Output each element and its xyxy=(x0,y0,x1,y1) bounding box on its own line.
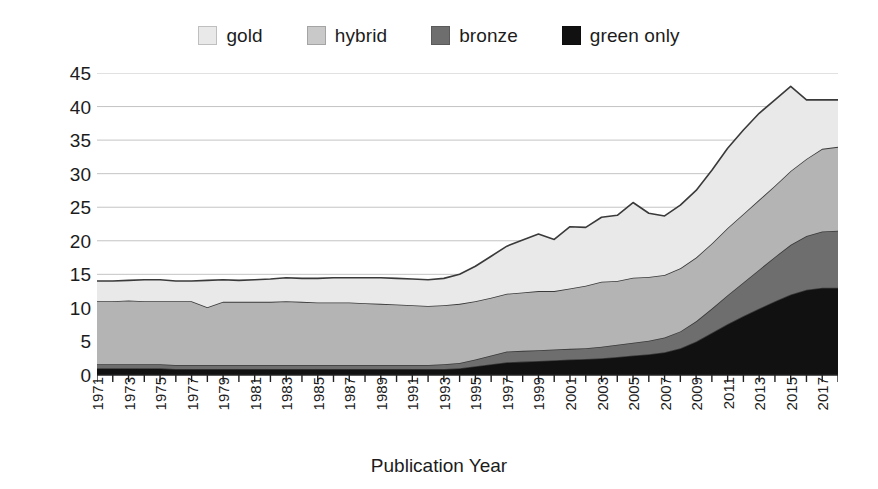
x-tick-label: 2007 xyxy=(658,377,673,410)
x-tick-label: 2011 xyxy=(721,377,736,409)
legend-label-hybrid: hybrid xyxy=(335,26,387,45)
y-tick-label: 10 xyxy=(70,298,91,317)
legend-swatch-bronze xyxy=(431,26,450,45)
y-tick-label: 25 xyxy=(70,198,91,217)
x-tick-label: 1975 xyxy=(153,377,168,410)
x-tick-label: 1993 xyxy=(437,377,452,410)
y-axis-ticks: 051015202530354045 xyxy=(55,73,91,375)
legend-item-green-only: green only xyxy=(562,26,680,45)
x-tick-label: 1973 xyxy=(122,377,137,410)
plot-area xyxy=(97,73,838,375)
chart-legend: gold hybrid bronze green only xyxy=(0,20,878,50)
x-tick-label: 2005 xyxy=(626,377,641,410)
x-tick-label: 2001 xyxy=(563,377,578,410)
y-tick-label: 35 xyxy=(70,131,91,150)
x-tick-label: 1977 xyxy=(185,377,200,410)
x-tick-label: 1983 xyxy=(279,377,294,410)
y-tick-label: 30 xyxy=(70,164,91,183)
legend-swatch-gold xyxy=(198,26,217,45)
x-tick-label: 2009 xyxy=(689,377,704,410)
x-tick-label: 1987 xyxy=(342,377,357,410)
x-tick-label: 1985 xyxy=(311,377,326,410)
legend-item-bronze: bronze xyxy=(431,26,518,45)
x-tick-label: 1999 xyxy=(531,377,546,410)
y-tick-label: 45 xyxy=(70,64,91,83)
legend-item-gold: gold xyxy=(198,26,262,45)
legend-swatch-green-only xyxy=(562,26,581,45)
legend-label-green-only: green only xyxy=(590,26,680,45)
x-axis-title: Publication Year xyxy=(0,455,878,477)
legend-swatch-hybrid xyxy=(307,26,326,45)
y-tick-label: 15 xyxy=(70,265,91,284)
legend-label-gold: gold xyxy=(226,26,262,45)
x-tick-label: 1989 xyxy=(374,377,389,410)
x-tick-label: 2003 xyxy=(595,377,610,410)
chart-figure: gold hybrid bronze green only Percentage… xyxy=(0,0,878,489)
x-tick-label: 1981 xyxy=(248,377,263,410)
x-tick-label: 1991 xyxy=(405,377,420,410)
x-tick-label: 1995 xyxy=(468,377,483,410)
legend-label-bronze: bronze xyxy=(459,26,518,45)
y-tick-label: 20 xyxy=(70,231,91,250)
stacked-area-chart xyxy=(97,73,838,384)
y-tick-label: 5 xyxy=(80,332,91,351)
legend-item-hybrid: hybrid xyxy=(307,26,387,45)
x-tick-label: 2013 xyxy=(752,377,767,410)
x-tick-label: 1979 xyxy=(216,377,231,410)
y-tick-label: 40 xyxy=(70,97,91,116)
x-tick-label: 1971 xyxy=(90,377,105,410)
x-tick-label: 1997 xyxy=(500,377,515,410)
x-tick-label: 2015 xyxy=(784,377,799,410)
x-tick-label: 2017 xyxy=(815,377,830,410)
